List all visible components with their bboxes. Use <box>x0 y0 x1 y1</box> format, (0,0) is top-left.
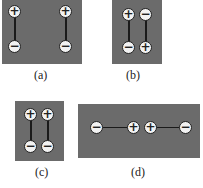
negative-charge: − <box>90 121 103 134</box>
positive-charge: + <box>139 41 152 54</box>
negative-charge: − <box>122 41 135 54</box>
panel-label-d: (d) <box>131 165 145 180</box>
negative-charge: − <box>139 8 152 21</box>
panel-label-b: (b) <box>126 68 140 83</box>
positive-charge: + <box>122 8 135 21</box>
positive-charge: + <box>127 121 140 134</box>
negative-charge: − <box>24 140 37 153</box>
positive-charge: + <box>59 5 72 18</box>
negative-charge: − <box>8 40 21 53</box>
positive-charge: + <box>41 108 54 121</box>
positive-charge: + <box>24 108 37 121</box>
negative-charge: − <box>41 140 54 153</box>
positive-charge: + <box>144 121 157 134</box>
negative-charge: − <box>59 40 72 53</box>
panel-label-c: (c) <box>35 165 48 180</box>
positive-charge: + <box>8 5 21 18</box>
panel-b <box>112 0 162 64</box>
panel-c <box>15 101 64 161</box>
negative-charge: − <box>179 121 192 134</box>
panel-label-a: (a) <box>34 68 47 83</box>
